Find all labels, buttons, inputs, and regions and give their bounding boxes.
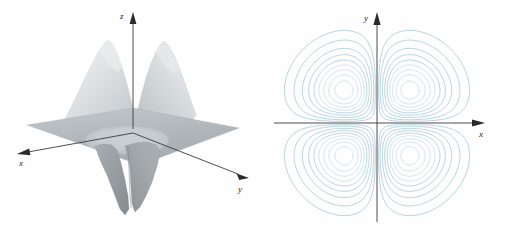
contour-line	[401, 81, 419, 99]
contour-axis-x	[274, 119, 485, 126]
contour-line	[309, 55, 370, 116]
contour-line	[294, 40, 374, 120]
contour-line	[385, 131, 446, 192]
contour-line	[314, 60, 367, 113]
contour-line	[302, 48, 371, 117]
contour-line	[382, 48, 451, 117]
contour-line	[387, 133, 440, 186]
surface-plot-panel: z x y	[0, 0, 253, 230]
surface-plot-svg: z x y	[0, 0, 253, 230]
contour-axis-y-label: y	[363, 13, 368, 23]
figure-root: z x y	[0, 0, 506, 230]
contour-line	[335, 81, 353, 99]
contour-line	[309, 131, 370, 192]
contour-line	[329, 75, 358, 104]
contour-line	[314, 133, 367, 186]
axis-z-label: z	[119, 11, 124, 21]
axis-x-label: x	[18, 158, 23, 168]
contour-line	[393, 70, 431, 108]
contour-line	[335, 147, 353, 165]
contour-line	[329, 142, 358, 171]
contour-line	[382, 128, 451, 197]
contour-map-panel: x y	[253, 0, 506, 230]
contour-line	[294, 126, 374, 206]
axis-y-label: y	[237, 184, 242, 194]
contour-line	[324, 139, 362, 177]
contour-line	[393, 139, 431, 177]
contour-axis-x-label: x	[478, 129, 483, 139]
contour-line	[387, 60, 440, 113]
contour-map-svg: x y	[253, 0, 506, 230]
contour-line	[401, 147, 419, 165]
contour-line	[396, 75, 425, 104]
contour-line	[380, 40, 460, 120]
contour-axis-y	[373, 12, 380, 222]
contour-line	[324, 70, 362, 108]
contour-line	[380, 126, 460, 206]
contour-line	[396, 142, 425, 171]
contour-line	[385, 55, 446, 116]
contour-line	[302, 128, 371, 197]
